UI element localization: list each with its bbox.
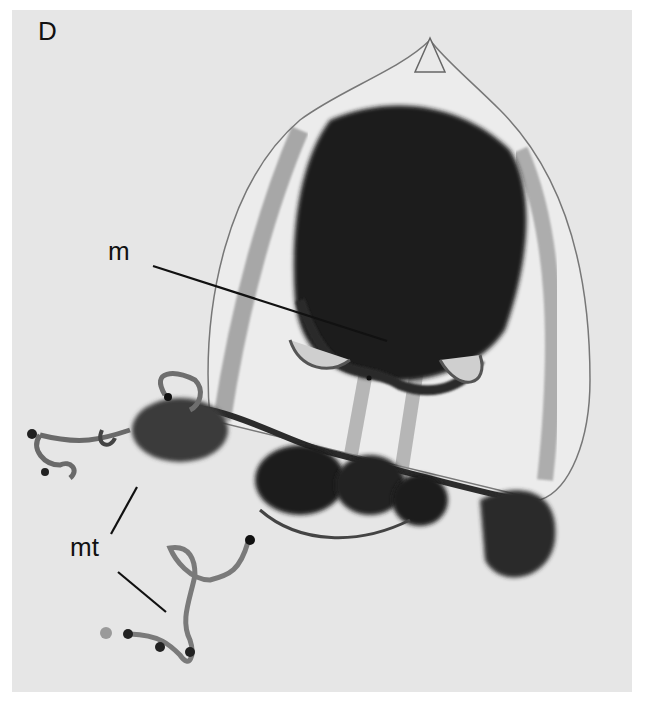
mt-leader-line-upper (111, 487, 137, 534)
jellyfish-specimen-illustration (12, 10, 632, 692)
label-manubrium: m (108, 236, 130, 267)
manubrium (294, 106, 527, 381)
micrograph-plate (12, 10, 632, 692)
label-marginal-tentacle: mt (70, 532, 99, 563)
mt-leader-line-lower (118, 572, 166, 612)
panel-letter: D (38, 16, 57, 47)
